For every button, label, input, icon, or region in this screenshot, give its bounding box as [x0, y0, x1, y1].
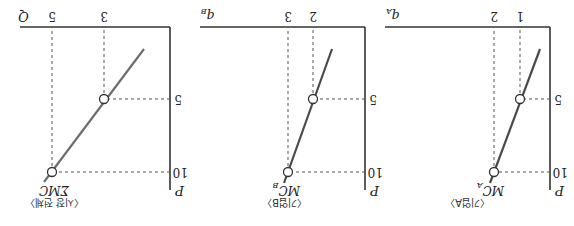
sum-mc-label: ΣMC: [39, 183, 70, 197]
x-tick-2: 2: [309, 9, 317, 23]
point-q3-p5: [100, 95, 109, 104]
caption-market: 〈시장 전체〉: [25, 197, 84, 208]
point-q1-p5: [516, 95, 525, 104]
x-axis-label: Q: [18, 9, 29, 24]
panel-firm-b: P 10 5 2 3 qB MCB 〈기업B〉: [200, 7, 383, 209]
mc-a-curve: [490, 49, 540, 183]
x-axis-label: qB: [201, 7, 215, 24]
caption-firm-a: 〈기업A〉: [445, 197, 490, 209]
rotated-group: P 10 5 1 2 qA MCA 〈기업A〉 P 10 5 2 3 qB: [18, 7, 568, 209]
panel-market: P 10 5 3 5 Q ΣMC 〈시장 전체〉: [18, 9, 188, 208]
y-axis-label: P: [370, 183, 380, 198]
point-q2-p5: [309, 95, 318, 104]
y-tick-10: 10: [368, 165, 383, 179]
x-axis-label: qA: [386, 7, 400, 24]
y-tick-5: 5: [369, 92, 377, 106]
mc-b-label: MCB: [273, 181, 301, 197]
panel-firm-a: P 10 5 1 2 qA MCA 〈기업A〉: [385, 7, 568, 209]
y-tick-5: 5: [174, 92, 182, 106]
point-q3-p10: [284, 168, 293, 177]
mc-a-label: MCA: [477, 181, 505, 197]
y-axis-label: P: [555, 183, 565, 198]
x-tick-3: 3: [100, 9, 108, 23]
y-tick-10: 10: [553, 165, 568, 179]
caption-firm-b: 〈기업B〉: [262, 197, 307, 209]
x-tick-2: 2: [490, 9, 498, 23]
point-q2-p10: [490, 168, 499, 177]
y-tick-10: 10: [173, 165, 188, 179]
sum-mc-curve: [44, 49, 144, 182]
x-tick-5: 5: [48, 9, 56, 23]
figure-canvas: P 10 5 1 2 qA MCA 〈기업A〉 P 10 5 2 3 qB: [0, 0, 574, 226]
point-q5-p10: [48, 168, 57, 177]
marginal-cost-figure: P 10 5 1 2 qA MCA 〈기업A〉 P 10 5 2 3 qB: [0, 0, 574, 226]
x-tick-3: 3: [284, 9, 292, 23]
y-axis-label: P: [175, 183, 185, 198]
mc-b-curve: [284, 49, 332, 183]
y-tick-5: 5: [554, 92, 562, 106]
x-tick-1: 1: [516, 9, 524, 23]
